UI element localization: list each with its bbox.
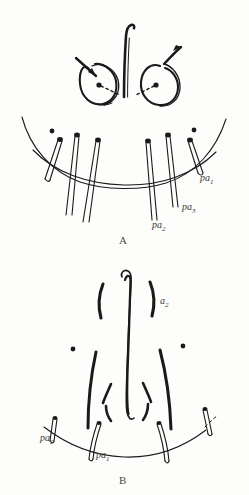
panel-b-right-arc <box>150 282 154 316</box>
panel-a-pore-right <box>192 128 197 133</box>
panel-b-seta-right-inner <box>157 421 170 463</box>
panel-b-seta-inner-right <box>160 350 171 429</box>
panel-a-left-sucker <box>76 58 120 105</box>
panel-b-seta-inner-left <box>88 352 96 428</box>
panel-a-drawing <box>22 25 226 222</box>
panel-a-label-pa1: pa1 <box>200 172 214 186</box>
panel-a-pore-left <box>50 129 55 134</box>
panel-b-caption: B <box>119 474 127 486</box>
panel-a-body-outline <box>22 117 226 189</box>
panel-b-label-pa2: pa2 <box>40 432 54 446</box>
panel-a-caption: A <box>119 234 127 246</box>
figure-plate <box>0 0 249 495</box>
panel-b-label-a2: a2 <box>160 295 169 309</box>
panel-b-crescent-1 <box>103 384 111 403</box>
panel-b-body-arc <box>44 427 206 457</box>
panel-b-pore-left <box>71 347 76 352</box>
panel-b-crescent-2 <box>143 383 151 402</box>
panel-b-crescent-3 <box>106 406 111 421</box>
panel-b-drawing <box>44 270 218 462</box>
panel-a-label-pa2: pa2 <box>152 219 166 233</box>
panel-b-pore-right <box>181 344 186 349</box>
panel-a-central-seta <box>124 25 134 97</box>
panel-b-central-seta <box>121 270 134 419</box>
panel-b-left-arc <box>99 284 103 318</box>
panel-a-label-pa3: pa3 <box>182 201 196 215</box>
panel-b-crescent-4 <box>143 404 148 420</box>
panel-b-body-arc-tail <box>205 415 218 427</box>
panel-b-label-pa1: pa1 <box>96 449 110 463</box>
figure-drawing <box>0 0 249 495</box>
panel-a-transverse-arc <box>33 150 216 185</box>
panel-a-right-sucker <box>136 45 181 106</box>
